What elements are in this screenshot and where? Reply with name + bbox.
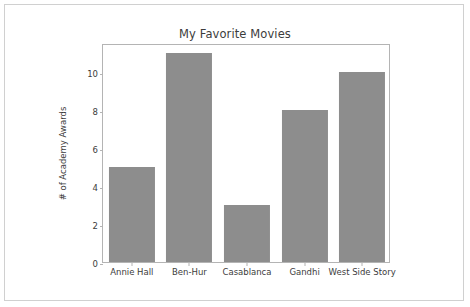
- y-tick-label: 6: [93, 145, 98, 155]
- y-tick-label: 2: [93, 221, 98, 231]
- bar: [339, 72, 385, 262]
- x-tick-label: Gandhi: [289, 267, 319, 277]
- x-tick-label: Ben-Hur: [172, 267, 207, 277]
- x-tick-label: Annie Hall: [110, 267, 153, 277]
- bar: [166, 53, 212, 262]
- y-tick-label: 8: [93, 107, 98, 117]
- y-tick-mark: [100, 112, 104, 113]
- bar: [282, 110, 328, 262]
- bar-chart: My Favorite Movies # of Academy Awards 0…: [5, 5, 465, 302]
- chart-title: My Favorite Movies: [5, 27, 465, 41]
- bar: [224, 205, 270, 262]
- x-tick-label: West Side Story: [329, 267, 396, 277]
- bar: [109, 167, 155, 262]
- y-tick-mark: [100, 74, 104, 75]
- y-axis-label: # of Academy Awards: [56, 44, 70, 263]
- y-tick-mark: [100, 150, 104, 151]
- x-tick-mark: [362, 262, 363, 266]
- plot-inner: 0246810 Annie HallBen-HurCasablancaGandh…: [103, 45, 389, 262]
- y-tick-mark: [100, 226, 104, 227]
- y-tick-mark: [100, 188, 104, 189]
- y-tick-mark: [100, 264, 104, 265]
- y-tick-label: 0: [93, 259, 98, 269]
- y-tick-label: 10: [87, 69, 98, 79]
- x-tick-mark: [304, 262, 305, 266]
- plot-area: 0246810 Annie HallBen-HurCasablancaGandh…: [102, 44, 390, 263]
- x-tick-mark: [189, 262, 190, 266]
- x-tick-mark: [247, 262, 248, 266]
- x-tick-label: Casablanca: [222, 267, 271, 277]
- figure-frame: My Favorite Movies # of Academy Awards 0…: [4, 4, 464, 301]
- x-tick-mark: [131, 262, 132, 266]
- y-tick-label: 4: [93, 183, 98, 193]
